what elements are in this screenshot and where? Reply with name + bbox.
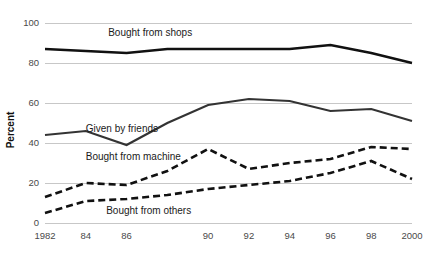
series-line-3 — [45, 161, 412, 213]
x-tick-label: 90 — [203, 230, 214, 241]
x-tick-label: 2000 — [401, 230, 422, 241]
series-label-2: Bought from machine — [86, 151, 181, 162]
line-chart: 020406080100 1982848690929496982000 Boug… — [0, 0, 424, 261]
x-tick-label: 96 — [325, 230, 336, 241]
x-tick-label: 86 — [121, 230, 132, 241]
y-tick-label: 80 — [28, 57, 39, 68]
x-axis-tick-labels: 1982848690929496982000 — [34, 230, 422, 241]
y-tick-label: 100 — [23, 17, 39, 28]
chart-canvas: 020406080100 1982848690929496982000 Boug… — [0, 0, 424, 261]
x-tick-label: 98 — [366, 230, 377, 241]
series-annotations: Bought from shopsGiven by friendsBought … — [86, 27, 192, 216]
series-label-3: Bought from others — [106, 205, 191, 216]
y-tick-label: 0 — [34, 217, 39, 228]
series-line-0 — [45, 45, 412, 63]
y-tick-label: 20 — [28, 177, 39, 188]
x-tick-label: 94 — [284, 230, 295, 241]
y-axis-title-text: Percent — [5, 111, 16, 148]
x-tick-label: 1982 — [34, 230, 55, 241]
y-tick-label: 60 — [28, 97, 39, 108]
y-axis-title: Percent — [5, 111, 16, 148]
y-tick-label: 40 — [28, 137, 39, 148]
series-label-1: Given by friends — [86, 123, 158, 134]
y-axis-tick-labels: 020406080100 — [23, 17, 39, 228]
series-label-0: Bought from shops — [108, 27, 192, 38]
x-tick-label: 84 — [80, 230, 91, 241]
x-tick-label: 92 — [244, 230, 255, 241]
